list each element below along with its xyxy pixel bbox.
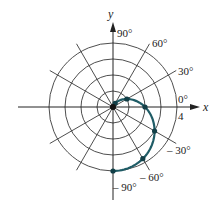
angle-label-30: 30° [178,65,193,77]
angle-label-0: 0° [178,93,188,105]
data-point [152,128,157,133]
angle-label-neg30: – 30° [166,144,191,156]
curve-data-points [110,96,157,173]
y-axis-label: y [107,7,114,21]
radius-tick-label: 4 [178,110,184,122]
x-axis-arrow-icon [190,104,200,110]
origin-point [110,104,116,110]
angle-label-neg60: – 60° [139,171,164,183]
data-point [140,156,145,161]
angle-label-neg90: – 90° [112,181,137,193]
data-point [142,104,147,109]
angle-label-60: 60° [152,37,167,49]
data-point [110,168,115,173]
y-axis-arrow-icon [110,22,116,32]
x-axis-label: x [202,100,209,114]
polar-plot: x y 4 90° 60° 30° 0° – 30° – 60° – 90° [0,0,221,212]
data-point [124,96,129,101]
angle-label-90: 90° [117,27,132,39]
